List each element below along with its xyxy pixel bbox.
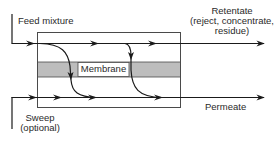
feed-mixture-label: Feed mixture [18, 16, 73, 26]
membrane-label: Membrane [78, 64, 129, 74]
sweep-subtitle: (optional) [14, 123, 66, 133]
retentate-label: Retentate (reject, concentrate, residue) [180, 6, 278, 36]
retentate-subtitle-2: residue) [180, 26, 278, 36]
permeate-label: Permeate [205, 102, 246, 112]
sweep-label: Sweep (optional) [14, 113, 66, 133]
